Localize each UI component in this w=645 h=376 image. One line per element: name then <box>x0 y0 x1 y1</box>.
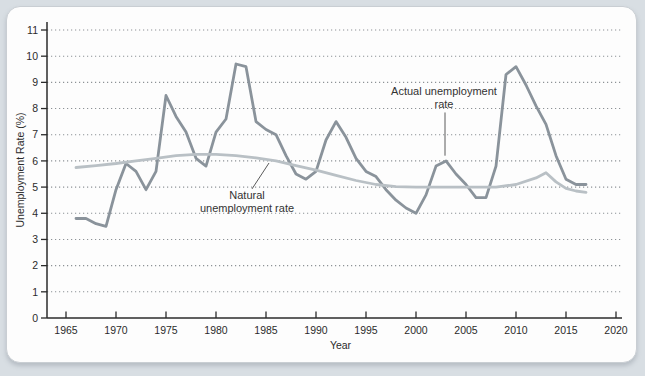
y-tick-label: 6 <box>32 155 38 167</box>
y-tick-label: 3 <box>32 233 38 245</box>
x-tick-label: 1995 <box>354 324 378 336</box>
x-tick-label: 2000 <box>404 324 428 336</box>
y-tick-label: 11 <box>27 24 38 36</box>
y-axis-title: Unemployment Rate (%) <box>14 113 26 228</box>
x-axis-title: Year <box>330 339 352 351</box>
x-tick-label: 2010 <box>504 324 528 336</box>
y-tick-label: 8 <box>32 102 38 114</box>
y-tick-label: 10 <box>26 50 38 62</box>
y-tick-label: 0 <box>32 312 38 324</box>
natural-label-pointer <box>252 163 269 189</box>
x-tick-label: 2015 <box>554 324 578 336</box>
x-tick-label: 1990 <box>304 324 328 336</box>
x-tick-label: 2005 <box>454 324 478 336</box>
y-tick-label: 4 <box>32 207 38 219</box>
y-tick-label: 5 <box>32 181 38 193</box>
x-tick-label: 1965 <box>54 324 78 336</box>
natural-label: Naturalunemployment rate <box>200 189 294 214</box>
x-tick-label: 1970 <box>104 324 128 336</box>
page: { "page": { "background": "#d8dee3", "ca… <box>0 0 645 376</box>
x-tick-label: 1980 <box>204 324 228 336</box>
actual-unemployment-line <box>76 64 586 226</box>
y-tick-label: 9 <box>32 76 38 88</box>
y-tick-label: 7 <box>32 128 38 140</box>
x-tick-label: 2020 <box>604 324 628 336</box>
unemployment-rate-chart: 0123456789101119651970197519801985199019… <box>0 0 645 376</box>
actual-label: Actual unemploymentrate <box>391 85 497 110</box>
x-tick-label: 1985 <box>254 324 278 336</box>
x-tick-label: 1975 <box>154 324 178 336</box>
y-tick-label: 2 <box>32 259 38 271</box>
y-tick-label: 1 <box>32 286 38 298</box>
